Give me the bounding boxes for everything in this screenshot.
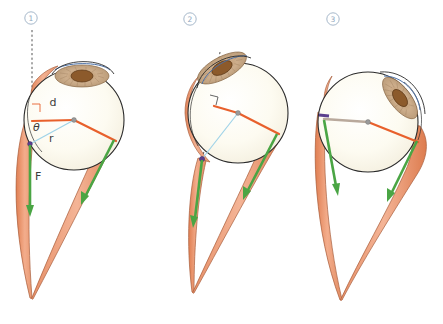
panel-number-1-text: 1 [29, 14, 34, 23]
panel-number-1: 1 [25, 12, 37, 24]
globe-center-hub [72, 118, 77, 123]
panel-number-3-text: 3 [331, 15, 336, 24]
panel-1: d θ r F 1 [0, 0, 148, 324]
label-r: r [49, 132, 54, 145]
label-theta: θ [33, 121, 40, 134]
label-d: d [50, 96, 57, 109]
panel-2: 2 [148, 0, 296, 324]
insertion-marker-left [319, 115, 329, 116]
globe-center-hub [366, 120, 371, 125]
label-F: F [35, 170, 41, 183]
pupil [71, 70, 93, 82]
panel-number-2-text: 2 [188, 15, 193, 24]
panel-number-2: 2 [184, 13, 196, 25]
panel-3: 3 [296, 0, 443, 324]
globe-center-hub [236, 111, 241, 116]
panel-number-3: 3 [327, 13, 339, 25]
eye-muscle-force-diagram: d θ r F 1 [0, 0, 443, 324]
